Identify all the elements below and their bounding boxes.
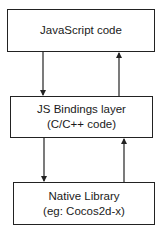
box-js-bindings-layer: JS Bindings layer (C/C++ code) bbox=[10, 96, 153, 138]
box-label: JS Bindings layer bbox=[37, 102, 126, 117]
arrow-native-to-bindings bbox=[121, 138, 127, 182]
box-label: Native Library bbox=[49, 189, 120, 204]
arrow-bindings-to-js bbox=[116, 52, 122, 97]
arrow-js-to-bindings bbox=[40, 52, 46, 96]
box-sublabel: (C/C++ code) bbox=[47, 117, 116, 132]
box-javascript-code: JavaScript code bbox=[7, 9, 155, 52]
box-native-library: Native Library (eg: Cocos2d-x) bbox=[13, 182, 155, 225]
arrow-bindings-to-native bbox=[41, 138, 47, 182]
box-label: JavaScript code bbox=[40, 23, 122, 38]
box-sublabel: (eg: Cocos2d-x) bbox=[43, 204, 125, 219]
